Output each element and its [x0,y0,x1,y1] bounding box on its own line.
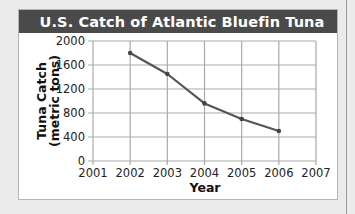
data-point [202,101,207,106]
x-tick-label: 2006 [264,166,293,180]
data-point [128,51,133,56]
data-point [277,129,282,134]
y-tick-label: 400 [63,130,85,144]
x-tick-label: 2003 [153,166,182,180]
y-axis-subtitle: (metric tons) [47,55,62,147]
data-point [165,72,170,77]
y-tick-label: 800 [63,106,85,120]
x-tick-label: 2005 [227,166,256,180]
x-axis-ticks: 2001200220032004200520062007 [78,166,330,180]
x-axis-title: Year [189,180,222,195]
x-tick-label: 2007 [301,166,330,180]
x-tick-label: 2001 [78,166,107,180]
x-tick-label: 2002 [116,166,145,180]
x-tick-label: 2004 [190,166,219,180]
grid-lines [88,41,316,165]
y-tick-label: 2000 [56,34,85,48]
line-chart: 2000160012008004000 20012002200320042005… [0,0,355,214]
data-point [239,117,244,122]
